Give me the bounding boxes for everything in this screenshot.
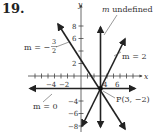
label-m-neg-prefix: m = − [24,43,50,52]
svg-text:2: 2 [72,60,76,68]
svg-text:8: 8 [72,23,76,31]
svg-text:−8: −8 [68,123,78,131]
label-point-p: P(3, −2) [116,95,150,104]
label-m-zero: m = 0 [33,102,57,111]
graph: y x −4 −2 4 6 8 6 2 −4 −6 −8 m undefined… [0,0,165,140]
svg-text:6: 6 [115,81,120,89]
label-m-neg-numerator: 3 [52,38,56,46]
y-tick-labels: 8 6 2 −4 −6 −8 [68,23,79,131]
x-axis-label: x [144,72,149,81]
svg-text:4: 4 [103,81,108,89]
label-m-neg-denominator: 2 [52,47,56,55]
svg-text:6: 6 [72,35,77,43]
y-axis [79,5,84,132]
svg-text:−4: −4 [68,98,79,106]
svg-text:−2: −2 [59,81,69,89]
svg-text:−6: −6 [68,110,79,118]
label-m-two: m = 2 [122,52,146,61]
y-axis-label: y [77,0,83,9]
label-m-undefined: m undefined [102,5,153,14]
svg-text:−4: −4 [46,81,57,89]
x-axis [28,74,142,79]
